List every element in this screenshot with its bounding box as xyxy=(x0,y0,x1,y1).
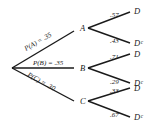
prob-a-dc: .43 xyxy=(110,37,119,45)
prob-c-dc: .67 xyxy=(110,111,119,119)
prob-b-d: .71 xyxy=(110,53,119,61)
edge-c-d xyxy=(88,88,130,101)
node-b: B xyxy=(80,63,85,73)
edge-b-d xyxy=(88,54,130,68)
edge-a-d xyxy=(88,12,130,28)
edge-c-dc xyxy=(88,101,130,117)
node-c-dc: Dᶜ xyxy=(133,112,143,122)
prob-a-d: .57 xyxy=(110,11,119,19)
edge-label-pa: P(A) = .35 xyxy=(22,30,53,53)
edge-a-dc xyxy=(88,28,130,43)
node-a-dc: Dᶜ xyxy=(133,38,143,48)
prob-c-d: .33 xyxy=(110,87,119,95)
node-c-d: D xyxy=(133,83,141,93)
node-a-d: D xyxy=(133,6,141,16)
prob-b-dc: .29 xyxy=(110,78,119,86)
tree-diagram: P(A) = .35 P(B) = .35 P(C) = .30 A B C .… xyxy=(0,0,152,130)
node-a: A xyxy=(79,23,86,33)
edge-label-pb: P(B) = .35 xyxy=(32,59,64,67)
node-c: C xyxy=(80,96,86,106)
edge-label-pc: P(C) = .30 xyxy=(25,70,57,93)
node-b-d: D xyxy=(133,49,141,59)
edge-b-dc xyxy=(88,68,130,83)
